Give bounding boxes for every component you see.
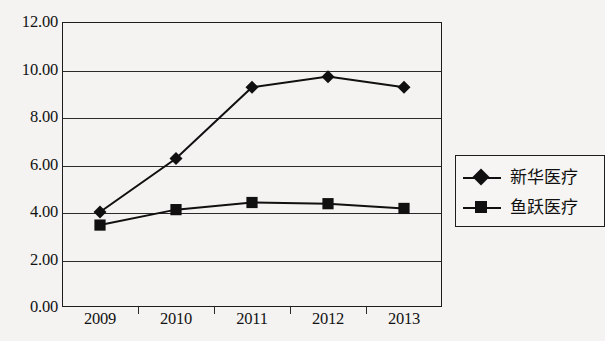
gridline [63, 71, 441, 72]
gridline [63, 118, 441, 119]
x-axis-tick-label: 2011 [214, 311, 290, 341]
square-marker-icon [462, 198, 502, 216]
y-axis-labels: 12.00 10.00 8.00 6.00 4.00 2.00 0.00 [0, 0, 58, 341]
y-axis-tick-label: 12.00 [2, 14, 58, 31]
legend-item-label: 鱼跃医疗 [510, 199, 578, 216]
y-axis-tick-label: 8.00 [2, 109, 58, 126]
x-axis-tick-label: 2009 [62, 311, 138, 341]
legend-item-yuyue: 鱼跃医疗 [462, 192, 604, 222]
legend-item-label: 新华医疗 [510, 169, 578, 186]
chart-legend: 新华医疗 鱼跃医疗 [455, 155, 605, 227]
x-axis-tick-label: 2010 [138, 311, 214, 341]
y-axis-tick-label: 6.00 [2, 157, 58, 174]
y-axis-tick-label: 0.00 [2, 299, 58, 316]
diamond-marker-icon [462, 168, 502, 186]
x-axis-tick-label: 2012 [290, 311, 366, 341]
gridline [63, 213, 441, 214]
gridline [63, 261, 441, 262]
y-axis-tick-label: 10.00 [2, 62, 58, 79]
plot-area [62, 22, 442, 307]
x-axis-labels: 2009 2010 2011 2012 2013 [62, 311, 442, 341]
y-axis-tick-label: 4.00 [2, 204, 58, 221]
legend-item-xinhua: 新华医疗 [462, 162, 604, 192]
x-axis-tick-label: 2013 [366, 311, 442, 341]
y-axis-tick-label: 2.00 [2, 252, 58, 269]
gridline [63, 166, 441, 167]
